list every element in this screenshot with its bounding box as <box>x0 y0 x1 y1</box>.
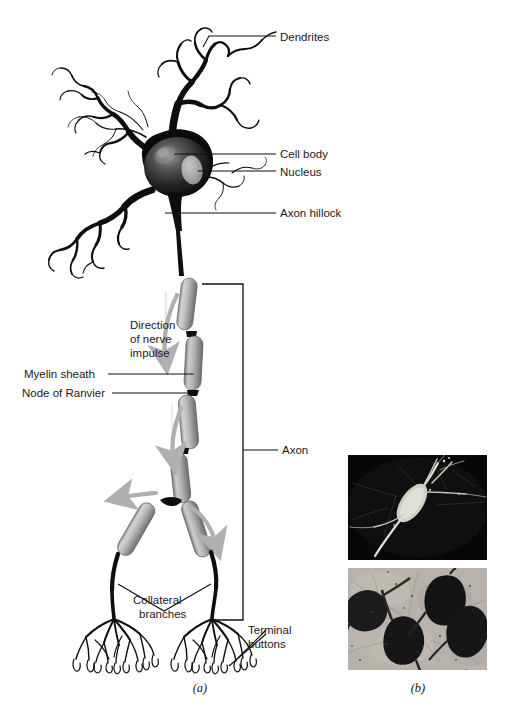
label-terminal-buttons: Terminal buttons <box>248 624 291 650</box>
cell-body-soma <box>142 129 213 197</box>
axon-bracket <box>202 284 243 620</box>
label-axon: Axon <box>282 444 308 456</box>
label-direction-line1: Direction <box>130 319 175 331</box>
myelin-segment <box>176 277 198 331</box>
myelin-segment <box>178 394 200 449</box>
label-terminal-line2: buttons <box>248 638 286 650</box>
label-nucleus: Nucleus <box>280 166 322 178</box>
panel-label-b: (b) <box>411 681 426 695</box>
label-terminal-line1: Terminal <box>248 624 291 636</box>
label-direction-of-nerve-impulse: Direction of nerve impulse <box>130 319 175 359</box>
node-of-ranvier-branchpoint <box>160 497 182 506</box>
axon-hillock-group <box>167 192 184 276</box>
neuron-figure: Dendrites Cell body Nucleus Axon hillock… <box>0 0 516 722</box>
label-collateral-line1: Collateral <box>133 594 182 606</box>
label-dendrites: Dendrites <box>280 31 329 43</box>
label-direction-line2: of nerve <box>130 333 172 345</box>
darkfield-neuron-micrograph <box>348 452 488 560</box>
label-node-of-ranvier: Node of Ranvier <box>22 387 105 399</box>
panel-b-micrographs: (b) <box>338 452 492 695</box>
myelin-segment <box>169 452 191 504</box>
myelin-segment <box>115 500 158 558</box>
terminal-buttons-left <box>73 619 158 674</box>
stained-tissue-micrograph <box>338 568 492 673</box>
panel-a-illustration: Dendrites Cell body Nucleus Axon hillock… <box>22 28 342 695</box>
arrow-left-icon <box>124 493 156 497</box>
label-cell-body: Cell body <box>280 148 328 160</box>
label-collateral-line2: branches <box>139 608 187 620</box>
label-direction-line3: impulse <box>130 347 170 359</box>
label-myelin-sheath: Myelin sheath <box>24 368 95 380</box>
myelin-segment <box>184 336 204 391</box>
terminal-buttons-right <box>171 619 256 674</box>
label-axon-hillock: Axon hillock <box>280 207 342 219</box>
label-collateral-branches: Collateral branches <box>133 594 187 620</box>
panel-label-a: (a) <box>193 681 208 695</box>
